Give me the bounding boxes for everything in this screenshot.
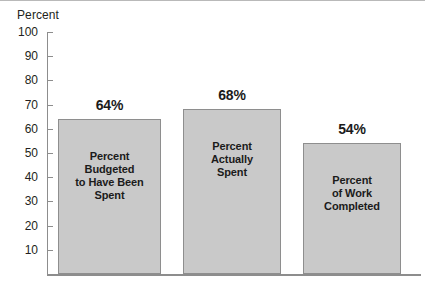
y-tick-mark (47, 129, 53, 130)
bar-category-label-line: Budgeted (59, 163, 160, 176)
bar-value-label: 54% (303, 121, 401, 137)
y-tick-mark (47, 226, 53, 227)
y-tick-label: 50 (0, 147, 38, 159)
y-tick-mark (47, 177, 53, 178)
y-tick-mark (47, 250, 53, 251)
y-tick-mark (47, 32, 53, 33)
y-axis-title: Percent (17, 8, 59, 22)
bar-value-label: 68% (183, 87, 281, 103)
y-tick-label: 30 (0, 195, 38, 207)
y-tick-mark (47, 56, 53, 57)
bar-category-label-line: Percent (59, 150, 160, 163)
bar-category-label-line: of Work (304, 187, 400, 200)
y-tick-mark (47, 153, 53, 154)
bar-category-label-line: Completed (304, 200, 400, 213)
bar[interactable]: Percentof WorkCompleted (303, 143, 401, 274)
y-tick-mark (47, 80, 53, 81)
y-tick-mark (47, 105, 53, 106)
y-tick-label: 80 (0, 74, 38, 86)
bar-category-label: PercentActuallySpent (184, 140, 280, 179)
bar[interactable]: PercentBudgetedto Have BeenSpent (58, 119, 161, 274)
top-rule (0, 0, 425, 1)
bar-category-label-line: to Have Been (59, 176, 160, 189)
y-tick-label: 10 (0, 244, 38, 256)
y-tick-label: 20 (0, 220, 38, 232)
bar-category-label-line: Actually (184, 153, 280, 166)
bar[interactable]: PercentActuallySpent (183, 109, 281, 274)
bar-category-label-line: Percent (304, 174, 400, 187)
bar-category-label-line: Spent (59, 189, 160, 202)
bar-category-label-line: Percent (184, 140, 280, 153)
bar-category-label-line: Spent (184, 166, 280, 179)
y-tick-mark (47, 201, 53, 202)
y-tick-label: 100 (0, 26, 38, 38)
bar-value-label: 64% (58, 97, 161, 113)
bar-category-label: Percentof WorkCompleted (304, 174, 400, 213)
bar-category-label: PercentBudgetedto Have BeenSpent (59, 150, 160, 202)
bar-chart: Percent 100908070605040302010 PercentBud… (0, 0, 425, 296)
y-tick-label: 70 (0, 99, 38, 111)
y-tick-label: 60 (0, 123, 38, 135)
x-axis-baseline (47, 274, 421, 276)
y-tick-label: 40 (0, 171, 38, 183)
y-tick-label: 90 (0, 50, 38, 62)
